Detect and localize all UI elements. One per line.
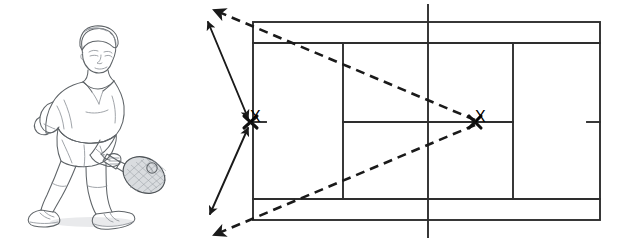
left-shoe [28,210,60,227]
right-eye [105,55,112,57]
left-knee-crease [52,183,66,186]
player-illustration-panel: Tennis player ready position [0,0,200,249]
right-eyebrow [104,51,112,53]
neck-right [108,70,114,81]
shirt-fold-2 [57,106,64,129]
x-mark-left: X [244,108,261,128]
solid-recovery-arrow-lower [210,128,248,214]
x-mark-left-label: X [250,108,261,125]
court-outer-boundary [253,22,600,220]
shorts-fold-1 [62,140,72,163]
collar-right [103,81,114,91]
right-leg-outer [106,163,112,212]
court-diagram-svg: X X [190,0,638,249]
player-illustration-svg [0,0,200,249]
shirt-fold-1 [64,100,72,128]
shirt-fold-3 [112,96,115,123]
left-shoe-lace-1 [40,213,50,219]
figure-root: Tennis player ready position [0,0,638,249]
tennis-racket [103,149,172,200]
shorts [57,128,116,167]
left-arm [40,102,59,133]
x-mark-right: X [469,108,486,128]
neck-left [83,70,88,82]
right-forearm-bottom [90,155,104,165]
shirt-fold-4 [86,110,108,113]
right-arm-upper-outer [101,135,116,154]
left-eye [90,55,98,56]
placket [92,92,99,104]
racket-head [116,149,171,200]
mouth [95,67,107,69]
x-mark-right-label: X [475,108,486,125]
head-outline [82,28,116,73]
right-leg-inner [86,167,96,214]
left-eyebrow [89,50,98,52]
solid-recovery-arrow-upper [208,22,248,118]
placket-2 [99,91,103,104]
court-diagram-panel: Tennis court positioning diagram [190,0,638,249]
shorts-fold-2 [84,145,85,167]
hair-outline [80,26,118,50]
right-knee-crease [88,186,107,188]
